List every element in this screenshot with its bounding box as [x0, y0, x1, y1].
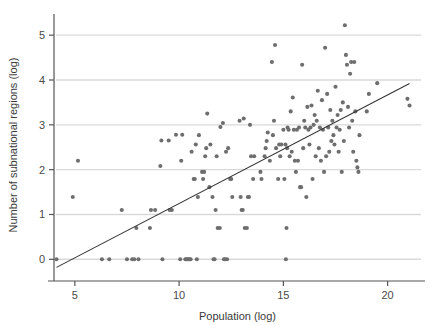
- data-point: [242, 117, 246, 121]
- data-point: [210, 195, 214, 199]
- data-point: [290, 150, 294, 154]
- data-point: [238, 119, 242, 123]
- data-point: [153, 208, 157, 212]
- data-point: [241, 208, 245, 212]
- data-point: [195, 257, 199, 261]
- data-point: [178, 257, 182, 261]
- data-point: [160, 257, 164, 261]
- plot-canvas: 0123455101520 Population (log) Number of…: [0, 0, 433, 325]
- y-tick-label: 1: [39, 208, 45, 220]
- data-point: [338, 128, 342, 132]
- data-point: [120, 208, 124, 212]
- data-point: [348, 72, 352, 76]
- data-point: [323, 46, 327, 50]
- data-point: [346, 105, 350, 109]
- y-axis-title: Number of subnational regions (log): [7, 58, 19, 233]
- data-point: [304, 195, 308, 199]
- data-point: [258, 170, 262, 174]
- data-point: [324, 154, 328, 158]
- data-point: [189, 257, 193, 261]
- data-point: [174, 133, 178, 137]
- data-point: [158, 164, 162, 168]
- data-point: [281, 128, 285, 132]
- data-point: [239, 195, 243, 199]
- data-point: [300, 63, 304, 67]
- data-point: [190, 150, 194, 154]
- x-tick-label: 15: [277, 289, 289, 301]
- data-point: [136, 257, 140, 261]
- data-point: [375, 81, 379, 85]
- data-point: [313, 113, 317, 117]
- data-point: [230, 195, 234, 199]
- data-point: [218, 125, 222, 129]
- data-point: [204, 146, 208, 150]
- data-point: [202, 170, 206, 174]
- data-point: [218, 226, 222, 230]
- data-point: [208, 143, 212, 147]
- y-tick-label: 2: [39, 164, 45, 176]
- data-point: [264, 146, 268, 150]
- data-point: [197, 133, 201, 137]
- data-point: [309, 104, 313, 108]
- data-point: [296, 159, 300, 163]
- data-point: [263, 154, 267, 158]
- data-point: [336, 113, 340, 117]
- data-point: [251, 177, 255, 181]
- data-point: [322, 170, 326, 174]
- data-point: [331, 133, 335, 137]
- data-point: [314, 154, 318, 158]
- data-point: [159, 138, 163, 142]
- data-point: [221, 121, 225, 125]
- data-point: [315, 119, 319, 123]
- data-point: [333, 85, 337, 89]
- data-point: [125, 257, 129, 261]
- data-point: [357, 133, 361, 137]
- data-point: [284, 257, 288, 261]
- data-point: [54, 257, 58, 261]
- data-point: [344, 53, 348, 57]
- data-point: [225, 257, 229, 261]
- data-point: [350, 119, 354, 123]
- data-point: [308, 125, 312, 129]
- y-tick-label: 5: [39, 29, 45, 41]
- x-tick-label: 10: [173, 289, 185, 301]
- data-point: [287, 128, 291, 132]
- y-tick-label: 3: [39, 119, 45, 131]
- data-point: [284, 226, 288, 230]
- data-point: [278, 154, 282, 158]
- data-point: [319, 159, 323, 163]
- data-point: [327, 150, 331, 154]
- data-point: [71, 195, 75, 199]
- data-point: [205, 112, 209, 116]
- data-point: [266, 130, 270, 134]
- data-point: [329, 139, 333, 143]
- data-point: [180, 133, 184, 137]
- data-point: [148, 226, 152, 230]
- data-point: [196, 195, 200, 199]
- data-point: [268, 159, 272, 163]
- data-point: [305, 105, 309, 109]
- data-point: [299, 185, 303, 189]
- data-point: [179, 159, 183, 163]
- data-point: [273, 43, 277, 47]
- data-point: [320, 98, 324, 102]
- data-point: [294, 170, 298, 174]
- data-point: [345, 63, 349, 67]
- figure-background: [0, 0, 433, 325]
- data-point: [100, 257, 104, 261]
- data-point: [356, 170, 360, 174]
- data-point: [291, 95, 295, 99]
- data-point: [302, 119, 306, 123]
- data-point: [354, 159, 358, 163]
- data-point: [271, 133, 275, 137]
- data-point: [405, 97, 409, 101]
- data-point: [343, 23, 347, 27]
- y-tick-label: 4: [39, 74, 45, 86]
- data-point: [282, 177, 286, 181]
- data-point: [276, 177, 280, 181]
- data-point: [132, 257, 136, 261]
- data-point: [215, 154, 219, 158]
- data-point: [193, 177, 197, 181]
- data-point: [328, 108, 332, 112]
- data-point: [340, 170, 344, 174]
